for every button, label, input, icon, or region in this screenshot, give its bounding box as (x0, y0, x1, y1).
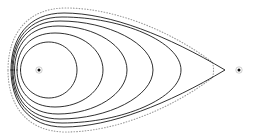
foci-group (36, 67, 242, 73)
right-focus-dot (238, 69, 241, 72)
oval-curve-4 (13, 21, 153, 119)
oval-curve-outermost-cusped (11, 13, 225, 127)
left-focus-dot (38, 69, 41, 72)
oval-curve-5 (12, 17, 181, 123)
oval-curve-innermost (21, 42, 78, 98)
cartesian-ovals-figure (0, 0, 255, 136)
oval-curve-group (8, 8, 225, 132)
oval-canvas (0, 0, 255, 136)
